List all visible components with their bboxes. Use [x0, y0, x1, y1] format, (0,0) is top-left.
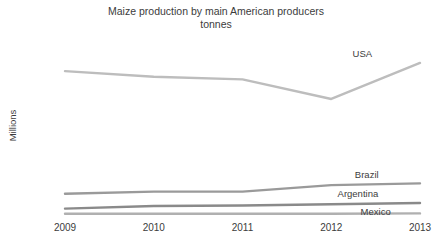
x-axis-tick-label: 2013 — [385, 222, 432, 233]
line-chart: Maize production by main American produc… — [0, 0, 432, 249]
series-label-argentina: Argentina — [338, 188, 379, 199]
y-axis-title: Millions — [7, 91, 18, 161]
series-label-mexico: Mexico — [361, 206, 391, 217]
series-label-brazil: Brazil — [355, 168, 379, 179]
series-line-usa — [65, 63, 420, 99]
x-axis-tick-label: 2010 — [119, 222, 189, 233]
x-axis-tick-label: 2011 — [208, 222, 278, 233]
x-axis-tick-label: 2009 — [30, 222, 100, 233]
chart-title: Maize production by main American produc… — [0, 5, 432, 31]
plot-area: 050100150200250300350400 200920102011201… — [65, 42, 420, 216]
series-label-usa: USA — [353, 47, 373, 58]
x-axis-tick-label: 2012 — [296, 222, 366, 233]
